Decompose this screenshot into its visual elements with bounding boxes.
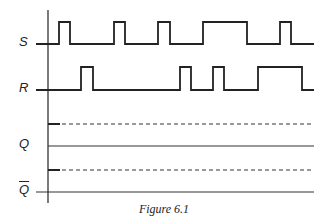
waveform-r — [36, 67, 314, 90]
figure-caption: Figure 6.1 — [0, 202, 328, 217]
signal-label-q-bar: Q — [19, 182, 29, 197]
signal-label-s: S — [19, 34, 28, 49]
signal-label-r: R — [19, 80, 28, 95]
signal-label-q: Q — [19, 136, 29, 151]
timing-diagram — [0, 0, 328, 218]
waveform-s — [36, 22, 314, 44]
